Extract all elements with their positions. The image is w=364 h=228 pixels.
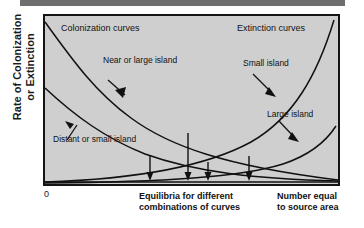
leader-arrow-large-island <box>279 121 299 142</box>
equilibrium-arrow-2 <box>185 133 192 181</box>
x-axis-source-area-label: Number equal to source area <box>277 191 339 213</box>
plot-area: Colonization curves Extinction curves Ne… <box>43 14 340 186</box>
y-axis-label: Rate of Colonization or Extinction <box>11 0 37 137</box>
label-distant-or-small-island: Distant or small island <box>53 134 136 144</box>
leader-arrow-near-or-large-island <box>108 80 126 98</box>
x-axis-equilibria-label-line1: Equilibria for different <box>139 191 240 202</box>
y-axis-label-line2: or Extinction <box>24 0 37 137</box>
label-small-island: Small island <box>243 58 289 68</box>
x-axis-equilibria-label-line2: combinations of curves <box>139 202 240 213</box>
y-axis-label-line1: Rate of Colonization <box>11 0 24 137</box>
label-small-island-line2: island <box>267 58 289 68</box>
equilibrium-arrow-3 <box>205 162 212 181</box>
label-large-island-line2: island <box>291 109 313 119</box>
label-near-or-large-island: Near or large island <box>103 55 177 65</box>
equilibrium-arrow-4 <box>246 156 253 181</box>
label-large-island: Large island <box>267 109 313 119</box>
label-near-or-large-island-line2: island <box>155 55 177 65</box>
label-distant-or-small-island-line2: small island <box>92 134 136 144</box>
leader-arrow-small-island <box>253 74 276 97</box>
x-axis-source-area-label-line2: to source area <box>277 202 339 213</box>
curves-svg <box>45 16 338 184</box>
label-distant-or-small-island-line1: Distant or <box>53 134 89 144</box>
figure-island-biogeography: Rate of Colonization or Extinction <box>0 0 364 228</box>
equilibrium-arrow-1 <box>147 156 154 181</box>
x-axis-origin-label: 0 <box>44 189 49 199</box>
x-axis-equilibria-label: Equilibria for different combinations of… <box>139 191 240 213</box>
label-near-or-large-island-line1: Near or large <box>103 55 153 65</box>
label-large-island-line1: Large <box>267 109 289 119</box>
label-colonization-curves: Colonization curves <box>61 23 140 33</box>
label-extinction-curves: Extinction curves <box>237 23 305 33</box>
label-small-island-line1: Small <box>243 58 264 68</box>
curve-near-or-large-island <box>45 22 338 180</box>
x-axis-source-area-label-line1: Number equal <box>277 191 339 202</box>
curve-small-island <box>45 20 334 182</box>
